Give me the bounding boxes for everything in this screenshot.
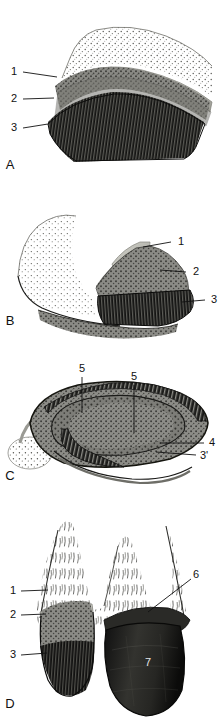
label-d-2: 2: [10, 608, 16, 620]
label-a-1: 1: [11, 65, 17, 77]
leader-1: [23, 72, 57, 77]
panel-letter-c: C: [5, 468, 14, 483]
panel-c: 5 5 4 3' C: [0, 355, 220, 505]
panel-d: 1 2 3 6 7 D: [0, 500, 220, 727]
panel-a-labels: 1 2 3 A: [6, 65, 57, 173]
label-c-4: 4: [209, 436, 215, 448]
label-b-3: 3: [211, 293, 217, 305]
hoof-wall-horn: [105, 623, 185, 716]
label-d-7: 7: [145, 656, 151, 668]
panel-c-drawing: 5 5 4 3' C: [0, 355, 220, 505]
label-a-2: 2: [11, 92, 17, 104]
label-c-3prime: 3': [200, 449, 208, 461]
panel-letter-b: B: [6, 313, 15, 328]
panel-letter-a: A: [6, 157, 15, 172]
label-b-1: 1: [178, 235, 184, 247]
panel-letter-d: D: [5, 696, 14, 711]
panel-a-drawing: 1 2 3 A: [0, 0, 220, 190]
leader-3: [23, 124, 48, 128]
panel-a: 1 2 3 A: [0, 0, 220, 190]
label-c-5a: 5: [79, 362, 85, 374]
figure-plate: 1 2 3 A: [0, 0, 220, 727]
leader-2: [23, 98, 54, 99]
label-a-3: 3: [11, 121, 17, 133]
label-d-1: 1: [10, 584, 16, 596]
panel-d-drawing: 1 2 3 6 7 D: [0, 500, 220, 727]
label-d-6: 6: [193, 568, 199, 580]
panel-b-drawing: 1 2 3 B: [0, 190, 220, 358]
label-c-5b: 5: [131, 370, 137, 382]
panel-b: 1 2 3 B: [0, 190, 220, 358]
skin-stipple-region: [10, 208, 110, 323]
label-b-2: 2: [193, 265, 199, 277]
label-d-3: 3: [10, 648, 16, 660]
